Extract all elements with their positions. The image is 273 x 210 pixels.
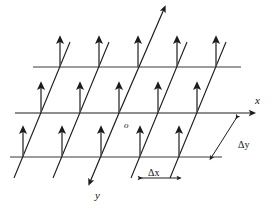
lattice-vectors-row-bottom: [23, 130, 179, 157]
origin-label: o: [124, 120, 129, 130]
delta-y-label: Δy: [238, 139, 249, 150]
delta-y-arrow: [211, 117, 237, 158]
lattice-vectors-row-middle: [41, 86, 197, 113]
delta-x-label: Δx: [148, 167, 159, 178]
x-axis-label: x: [254, 94, 260, 106]
delta-y-dimension: Δy: [211, 117, 249, 158]
horizontal-grid-lines: [10, 67, 241, 157]
y-axis-line-positive: [90, 113, 119, 182]
lattice-vectors-row-top: [60, 40, 216, 67]
y-axis-label: y: [94, 189, 100, 201]
delta-x-dimension: Δx: [140, 167, 179, 178]
lattice-diagram-svg: x y o: [0, 0, 273, 210]
lattice-figure: x y o: [0, 0, 273, 210]
x-axis: x: [15, 94, 260, 113]
